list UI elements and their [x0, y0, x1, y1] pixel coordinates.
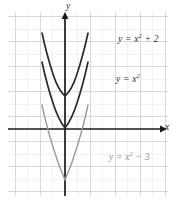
y-axis-label: y — [66, 1, 70, 11]
curve-label-top-base: y = x — [118, 34, 139, 44]
curve-label-bottom-base: y = x — [109, 152, 130, 162]
x-axis-label: x — [165, 122, 169, 132]
y-axis-arrowhead — [62, 12, 69, 19]
curve-label-mid-base: y = x — [116, 74, 137, 84]
curve-label-y-equals-x-squared: y = x2 — [116, 72, 140, 84]
curve-label-mid-exponent: 2 — [137, 72, 140, 79]
parabola-translation-figure: y = x2 + 2 y = x2 y = x2 − 3 y x — [0, 0, 174, 201]
curve-label-bottom-suffix: − 3 — [133, 152, 150, 162]
curve-label-y-equals-x-squared-plus-2: y = x2 + 2 — [118, 32, 159, 44]
coordinate-plane — [0, 0, 174, 201]
curve-label-top-suffix: + 2 — [142, 34, 159, 44]
curve-label-y-equals-x-squared-minus-3: y = x2 − 3 — [109, 150, 150, 162]
